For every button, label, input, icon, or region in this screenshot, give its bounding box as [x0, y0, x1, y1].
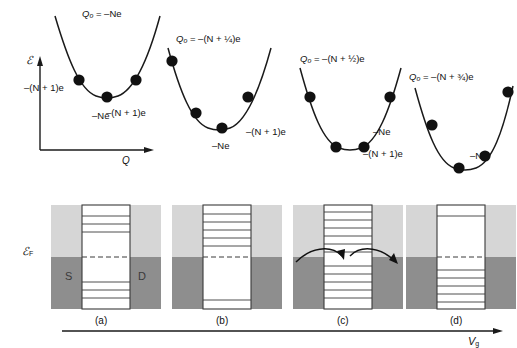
energy-axis-label: ℰ — [26, 54, 33, 67]
charge-state-dot — [242, 91, 253, 102]
parabola-d-equation: Qo = –(N + ¾)e — [409, 71, 474, 82]
charge-state-dot — [330, 141, 341, 152]
panel-a-caption: (a) — [95, 315, 107, 326]
energy-axes — [37, 56, 154, 153]
parabola-d-vertex-state: –Ne — [470, 150, 487, 161]
gate-voltage-label: Vg — [468, 335, 479, 347]
parabola-b-left-state: –(N + 1)e — [106, 107, 146, 118]
panel-a — [51, 205, 161, 309]
parabola-b-curve — [166, 48, 271, 134]
panel-b-caption: (b) — [216, 315, 228, 326]
panel-c-caption: (c) — [337, 315, 349, 326]
panel-c — [293, 205, 403, 309]
parabola-a-equation: Qo = –Ne — [82, 8, 122, 19]
parabola-c-vertex-state: –Ne — [373, 126, 390, 137]
band-diagrams-group — [0, 190, 517, 348]
charge-axis-label: Q — [122, 155, 130, 166]
charge-state-dot — [190, 107, 201, 118]
charge-state-dot — [166, 55, 177, 66]
charge-state-dot — [426, 119, 437, 130]
charge-state-dot — [216, 122, 227, 133]
charge-state-dot — [453, 162, 464, 173]
parabola-a-curve — [55, 16, 160, 103]
charge-state-dot — [304, 91, 315, 102]
parabola-b-vertex-state: –Ne — [212, 140, 229, 151]
parabolas-group — [0, 0, 517, 190]
parabola-d-curve — [415, 86, 514, 174]
parabola-b-equation: Qo = –(N + ¼)e — [176, 33, 241, 44]
charge-state-dot — [502, 86, 513, 97]
parabola-c-equation: Qo = –(N + ½)e — [300, 53, 365, 64]
charge-state-dot — [130, 74, 141, 85]
charge-state-dot — [384, 91, 395, 102]
panel-b — [172, 205, 282, 309]
figure-canvas: ℰ Q Qo = –Ne –(N + 1)e –Ne Qo = –(N + ¼)… — [0, 0, 517, 348]
fermi-level-label: ℰF — [22, 245, 33, 258]
panel-d — [406, 205, 516, 309]
parabola-c-left-state: –(N + 1)e — [246, 126, 286, 137]
parabola-c-curve — [300, 68, 401, 153]
drain-label: D — [138, 270, 146, 282]
panel-d-caption: (d) — [450, 315, 462, 326]
parabola-a-left-state: –(N + 1)e — [24, 82, 64, 93]
charge-state-dot — [101, 91, 112, 102]
charge-state-dot — [73, 74, 84, 85]
parabola-d-left-state: –(N + 1)e — [363, 148, 403, 159]
source-label: S — [65, 270, 72, 282]
gate-voltage-axis — [62, 328, 503, 334]
